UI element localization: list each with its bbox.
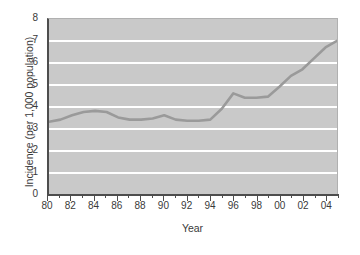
- x-axis-tick: [222, 194, 223, 198]
- x-axis-tick: [152, 194, 153, 198]
- x-axis-tick: [175, 194, 176, 198]
- x-tick-label: 02: [291, 200, 315, 212]
- x-tick-label: 94: [198, 200, 222, 212]
- x-axis-tick: [291, 194, 292, 198]
- y-axis-title: Incidence (per 1,000 population): [23, 17, 35, 207]
- series-incidence: [49, 19, 337, 194]
- incidence-line-chart: 012345678 80828486889092949698000204 Yea…: [0, 0, 360, 255]
- x-axis-tick-labels: 80828486889092949698000204: [0, 200, 360, 214]
- x-tick-label: 96: [221, 200, 245, 212]
- x-tick-label: 82: [58, 200, 82, 212]
- x-axis-title: Year: [47, 222, 338, 234]
- x-axis-tick: [128, 194, 129, 198]
- x-tick-label: 90: [151, 200, 175, 212]
- x-tick-label: 80: [35, 200, 59, 212]
- x-tick-label: 04: [314, 200, 338, 212]
- x-axis-tick: [315, 194, 316, 198]
- x-tick-label: 86: [105, 200, 129, 212]
- x-axis-tick: [59, 194, 60, 198]
- x-tick-label: 92: [175, 200, 199, 212]
- x-axis-tick: [268, 194, 269, 198]
- x-axis-line: [47, 194, 338, 196]
- x-axis-tick: [82, 194, 83, 198]
- x-tick-label: 84: [82, 200, 106, 212]
- x-axis-tick: [338, 194, 339, 198]
- x-tick-label: 00: [268, 200, 292, 212]
- x-tick-label: 88: [128, 200, 152, 212]
- x-tick-label: 98: [245, 200, 269, 212]
- x-axis-tick: [105, 194, 106, 198]
- y-axis-tick-labels: 012345678: [0, 0, 44, 255]
- x-axis-tick: [245, 194, 246, 198]
- plot-area: [47, 18, 338, 194]
- x-axis-tick: [198, 194, 199, 198]
